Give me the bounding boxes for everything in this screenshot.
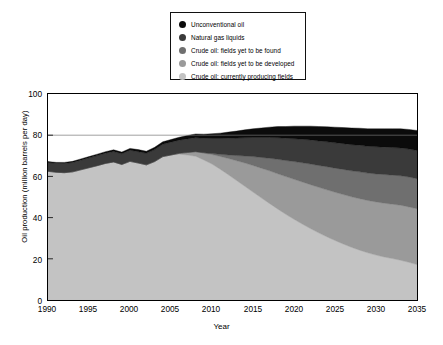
legend-label: Crude oil: currently producing fields (191, 73, 293, 80)
legend-label: Unconventional oil (191, 21, 244, 28)
legend-label: Crude oil: fields yet to be developed (191, 60, 294, 67)
y-tick-20: 20 (18, 256, 42, 264)
plot-area (47, 93, 418, 301)
legend-item-fields-yet-to-be-developed: Crude oil: fields yet to be developed (179, 57, 299, 69)
oil-production-stacked-area-figure: Unconventional oil Natural gas liquids C… (0, 0, 443, 345)
x-tick-2035: 2035 (400, 305, 434, 314)
legend-item-natural-gas-liquids: Natural gas liquids (179, 31, 299, 43)
x-tick-2015: 2015 (236, 305, 270, 314)
legend-swatch-icon (179, 21, 186, 28)
legend-label: Natural gas liquids (191, 34, 245, 41)
x-tick-2030: 2030 (359, 305, 393, 314)
x-tick-1990: 1990 (30, 305, 64, 314)
legend-item-unconventional-oil: Unconventional oil (179, 18, 299, 30)
x-tick-2020: 2020 (277, 305, 311, 314)
legend-swatch-icon (179, 34, 186, 41)
x-axis-title: Year (0, 322, 443, 331)
chart-legend: Unconventional oil Natural gas liquids C… (170, 12, 306, 80)
legend-item-currently-producing-fields: Crude oil: currently producing fields (179, 70, 299, 82)
legend-item-fields-yet-to-be-found: Crude oil: fields yet to be found (179, 44, 299, 56)
x-tick-2010: 2010 (194, 305, 228, 314)
x-tick-2000: 2000 (112, 305, 146, 314)
stacked-area-svg (48, 94, 417, 300)
x-tick-1995: 1995 (71, 305, 105, 314)
x-tick-2005: 2005 (153, 305, 187, 314)
x-axis-tick-labels: 1990 1995 2000 2005 2010 2015 2020 2025 … (0, 305, 443, 319)
legend-swatch-icon (179, 73, 186, 80)
legend-swatch-icon (179, 47, 186, 54)
y-axis-title: Oil production (million barrels per day) (20, 97, 29, 257)
x-tick-2025: 2025 (318, 305, 352, 314)
legend-label: Crude oil: fields yet to be found (191, 47, 281, 54)
legend-swatch-icon (179, 60, 186, 67)
